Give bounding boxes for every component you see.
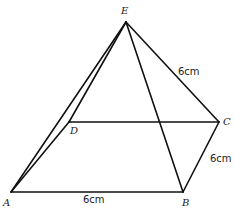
edge-ec: [126, 22, 219, 122]
vertex-label-d: D: [69, 125, 78, 136]
measurement-bc: 6cm: [210, 153, 232, 164]
vertex-label-e: E: [120, 5, 129, 16]
measurement-ec: 6cm: [178, 66, 200, 77]
vertex-label-a: A: [2, 197, 10, 208]
edge-ae: [11, 22, 126, 192]
edge-de: [69, 22, 126, 122]
measurement-ab: 6cm: [83, 194, 105, 205]
vertex-label-b: B: [181, 197, 189, 208]
vertex-label-c: C: [223, 116, 231, 127]
pyramid-diagram: A B C D E 6cm 6cm 6cm: [0, 0, 235, 209]
edge-ad: [11, 122, 69, 192]
edge-eb: [126, 22, 183, 192]
